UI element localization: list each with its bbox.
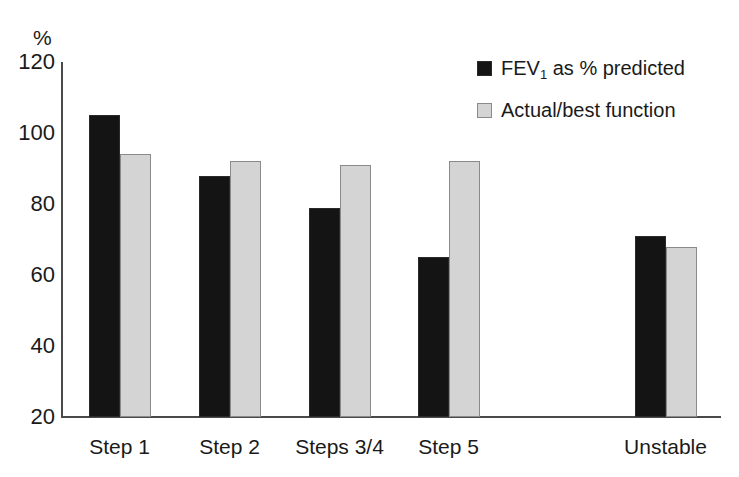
bar <box>230 161 261 417</box>
light-square-icon <box>477 103 492 118</box>
legend: FEV1 as % predicted Actual/best function <box>477 54 685 138</box>
y-axis-tick-label: 80 <box>3 193 55 215</box>
bar <box>666 247 697 417</box>
y-axis-tick-label: 100 <box>3 122 55 144</box>
bar <box>199 176 230 417</box>
x-axis-category-label: Step 2 <box>199 435 260 459</box>
y-axis-tick-label: 40 <box>3 335 55 357</box>
y-axis-tick-label: 60 <box>3 264 55 286</box>
x-axis-category-label: Step 1 <box>89 435 150 459</box>
legend-item-label: FEV1 as % predicted <box>501 57 685 79</box>
y-axis-unit-label: % <box>33 26 52 50</box>
bar <box>340 165 371 417</box>
x-axis-category-label: Steps 3/4 <box>295 435 384 459</box>
bar <box>309 208 340 417</box>
bar <box>449 161 480 417</box>
bar <box>635 236 666 417</box>
bar-chart: % 12010080604020 Step 1Step 2Steps 3/4St… <box>0 0 739 477</box>
dark-square-icon <box>477 61 492 76</box>
legend-item-label: Actual/best function <box>501 99 676 121</box>
y-axis-tick-label: 120 <box>3 51 55 73</box>
legend-item-fev1: FEV1 as % predicted <box>477 54 685 82</box>
bar <box>120 154 151 417</box>
bar <box>418 257 449 417</box>
x-axis-category-label: Step 5 <box>418 435 479 459</box>
legend-item-actual-best-function: Actual/best function <box>477 96 685 124</box>
bar <box>89 115 120 417</box>
y-axis-tick-label: 20 <box>3 406 55 428</box>
x-axis-category-label: Unstable <box>624 435 707 459</box>
